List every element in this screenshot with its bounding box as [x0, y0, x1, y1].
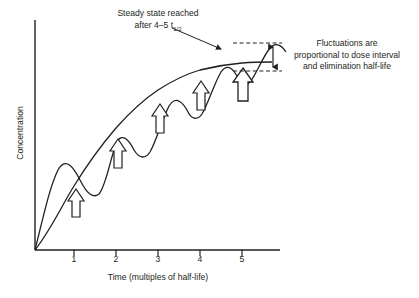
dose-arrow-5 — [233, 68, 253, 101]
half-life-subscript: 1/2 — [173, 25, 181, 31]
steady-state-text: Steady state reached after 4–5 t — [117, 8, 198, 30]
y-axis-title: Concentration — [15, 73, 25, 193]
x-tick-label-1: 1 — [64, 254, 84, 264]
fluctuation-annotation: Fluctuations are proportional to dose in… — [276, 38, 418, 73]
dose-arrow-3 — [152, 104, 168, 133]
x-tick-label-2: 2 — [106, 254, 126, 264]
x-tick-label-3: 3 — [148, 254, 168, 264]
x-tick-label-5: 5 — [232, 254, 252, 264]
steady-state-annotation: Steady state reached after 4–5 t1/2 — [88, 8, 228, 35]
x-tick-label-4: 4 — [190, 254, 210, 264]
x-axis-title: Time (multiples of half-life) — [36, 272, 280, 282]
fluctuation-dashed-lines — [233, 43, 282, 71]
accumulation-curve — [35, 62, 272, 250]
